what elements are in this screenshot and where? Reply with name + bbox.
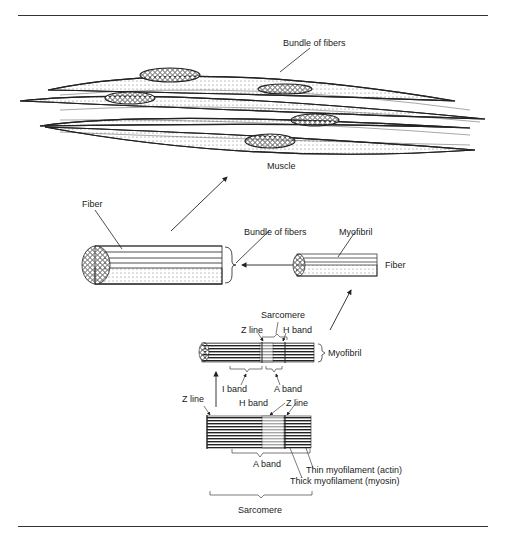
fiber-left-label: Fiber — [82, 199, 103, 209]
a-band-top-brace — [266, 366, 282, 372]
sarcomere-bottom-label: Sarcomere — [238, 505, 282, 515]
muscle-bundle-pointer — [280, 48, 310, 72]
myofibril-illustration — [199, 342, 314, 363]
myofibril-brace — [318, 344, 325, 362]
fiber-left-pointer — [95, 210, 122, 249]
bundle-brace — [225, 247, 236, 283]
i-band-brace — [230, 366, 262, 372]
z-line-right-label: Z line — [286, 398, 308, 408]
z-line-left-pointer — [204, 406, 210, 415]
thick-myofilament-pointer — [290, 448, 302, 478]
fiber-bundle-illustration — [82, 246, 222, 284]
sarcomere-illustration — [207, 415, 311, 449]
sarcomere-bottom-brace — [210, 491, 312, 498]
z-line-top-label: Z line — [241, 325, 263, 335]
sarcomere-top-pointer — [276, 322, 278, 334]
h-band-bottom-label: H band — [239, 398, 268, 408]
a-band-top-label: A band — [274, 384, 302, 394]
arrow-to-muscle — [171, 177, 227, 231]
a-band-bottom-label: A band — [253, 459, 281, 469]
myofibril-side-label: Myofibril — [328, 348, 362, 358]
fiber-illustration — [293, 254, 377, 276]
z-line-left-label: Z line — [182, 394, 204, 404]
h-band-bottom-pointer — [270, 403, 285, 415]
h-band-top-label: H band — [283, 325, 312, 335]
fiber-right-label: Fiber — [385, 260, 406, 270]
i-band-label: I band — [222, 384, 247, 394]
muscle-bundle-label: Bundle of fibers — [283, 38, 346, 48]
thin-myofilament-label: Thin myofilament (actin) — [306, 465, 402, 475]
muscle-illustration — [20, 68, 485, 154]
bundle-of-fibers-label: Bundle of fibers — [244, 227, 307, 237]
sarcomere-top-label: Sarcomere — [261, 310, 305, 320]
a-band-bottom-brace — [232, 449, 310, 457]
myofibril-top-label: Myofibril — [339, 227, 373, 237]
muscle-label: Muscle — [267, 161, 296, 171]
arrow-to-fiber — [330, 290, 351, 330]
thick-myofilament-label: Thick myofilament (myosin) — [290, 476, 400, 486]
